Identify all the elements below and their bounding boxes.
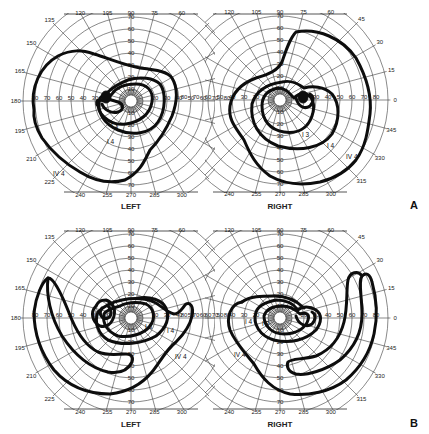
- isopter-label: IV 4: [175, 353, 187, 360]
- meridian-label: 210: [26, 156, 37, 162]
- meridian-label: 105: [102, 10, 113, 16]
- meridian-label: 60: [327, 9, 334, 15]
- ring-label: 60: [128, 26, 135, 32]
- ring-label: 50: [277, 37, 284, 43]
- meridian-label: 75: [300, 9, 307, 15]
- ring-label: 20: [128, 291, 135, 297]
- meridian-label: 300: [326, 191, 337, 197]
- meridian-label: 30: [376, 39, 383, 45]
- ring-label: 80: [373, 94, 380, 100]
- ring-label: 20: [277, 73, 284, 79]
- meridian-label: 345: [386, 345, 397, 351]
- ring-label: 10: [128, 110, 135, 116]
- ring-label: 50: [217, 312, 224, 318]
- isopter-label: I 4: [327, 142, 335, 149]
- meridian-label: 75: [151, 10, 158, 16]
- isopters-A-left: [33, 51, 176, 182]
- ring-label: 50: [128, 255, 135, 261]
- isopters-B-right: [229, 273, 377, 395]
- meridian-label: 60: [327, 227, 334, 233]
- meridian-label: 45: [358, 16, 365, 22]
- ring-label: 50: [277, 255, 284, 261]
- ring-label: 50: [128, 38, 135, 44]
- ring-label: 40: [128, 146, 135, 152]
- meridian-label: 0: [394, 315, 398, 321]
- isopter-label: I 3: [145, 323, 153, 330]
- meridian-label: 165: [15, 68, 26, 74]
- isopter-label: I 4: [107, 138, 115, 145]
- perimetry-figure: 6075901051201351501651801952102252402552…: [0, 0, 429, 434]
- meridian-label: 75: [300, 227, 307, 233]
- ring-label: 30: [241, 94, 248, 100]
- eye-label-left-A: LEFT: [121, 202, 141, 211]
- ring-label: 40: [80, 95, 87, 101]
- meridian-label: 255: [251, 191, 262, 197]
- eye-label-left-B: LEFT: [121, 420, 141, 429]
- meridian-label: 195: [15, 345, 26, 351]
- meridian-label: 120: [75, 10, 86, 16]
- ring-label: 60: [56, 95, 63, 101]
- isopter-label: I 3: [262, 320, 270, 327]
- ring-label: 60: [277, 243, 284, 249]
- blind-spot-A-right: [298, 91, 308, 103]
- eye-label-right-B: RIGHT: [268, 420, 293, 429]
- meridian-label: 345: [386, 127, 397, 133]
- meridian-label: 300: [326, 409, 337, 415]
- ring-label: 50: [337, 94, 344, 100]
- ring-label: 40: [277, 267, 284, 273]
- meridian-label: 270: [275, 409, 286, 415]
- meridian-label: 195: [15, 128, 26, 134]
- meridian-label: 135: [45, 234, 56, 240]
- isopter-IV4-B-right: [229, 274, 377, 394]
- eye-label-right-A: RIGHT: [268, 202, 293, 211]
- ring-label: 60: [277, 25, 284, 31]
- ring-label: 60: [349, 94, 356, 100]
- meridian-label: 210: [26, 373, 37, 379]
- panel-label-A: A: [410, 199, 418, 211]
- meridian-label: 240: [75, 409, 86, 415]
- meridian-label: 15: [388, 67, 395, 73]
- meridian-label: 240: [224, 409, 235, 415]
- ring-label: 40: [80, 312, 87, 318]
- meridian-label: 285: [150, 192, 161, 198]
- meridian-label: 270: [126, 192, 137, 198]
- isopter-label: IV 4: [234, 351, 246, 358]
- meridian-label: 300: [177, 409, 188, 415]
- meridian-label: 180: [11, 315, 22, 321]
- isopter-label: I 3: [111, 122, 119, 129]
- meridian-label: 225: [45, 396, 56, 402]
- meridian-label: 315: [356, 178, 367, 184]
- ring-label: 30: [277, 133, 284, 139]
- ring-label: 60: [205, 312, 212, 318]
- meridian-label: 105: [251, 227, 262, 233]
- ring-label: 70: [277, 231, 284, 237]
- ring-label: 70: [361, 94, 368, 100]
- panel-label-B: B: [410, 417, 418, 429]
- ring-label: 50: [128, 158, 135, 164]
- meridian-label: 60: [178, 227, 185, 233]
- meridian-label: 120: [75, 227, 86, 233]
- meridian-label: 150: [26, 257, 37, 263]
- ring-label: 30: [128, 279, 135, 285]
- ring-label: 70: [128, 14, 135, 20]
- isopters-A-right: [230, 31, 371, 184]
- meridian-label: 285: [299, 409, 310, 415]
- ring-label: 60: [349, 312, 356, 318]
- meridian-label: 255: [102, 192, 113, 198]
- ring-label: 80: [181, 312, 188, 318]
- meridian-label: 15: [388, 285, 395, 291]
- ring-label: 50: [128, 375, 135, 381]
- meridian-label: 315: [356, 396, 367, 402]
- isopter-label: I 4: [245, 318, 253, 325]
- meridian-label: 105: [102, 227, 113, 233]
- ring-label: 50: [217, 94, 224, 100]
- meridian-label: 75: [151, 227, 158, 233]
- ring-label: 70: [128, 231, 135, 237]
- ring-label: 20: [277, 121, 284, 127]
- meridian-label: 165: [15, 285, 26, 291]
- ring-label: 30: [277, 351, 284, 357]
- meridian-label: 45: [358, 234, 365, 240]
- frames: [64, 14, 347, 409]
- isopter-IV4-B-left-inner: [48, 278, 133, 373]
- ring-label: 30: [277, 279, 284, 285]
